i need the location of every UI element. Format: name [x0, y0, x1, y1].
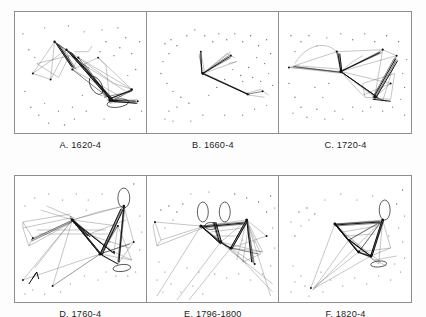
- panel-b-network: [147, 12, 279, 133]
- panel-e[interactable]: [147, 175, 280, 303]
- panel-c[interactable]: [279, 11, 412, 134]
- panel-d-network: [15, 176, 146, 302]
- panel-c-network: [279, 12, 411, 133]
- panel-b[interactable]: [147, 11, 280, 134]
- caption-panel-c: C. 1720-4: [279, 134, 412, 150]
- caption-row-2: D. 1760-4 E. 1796-1800 F. 1820-4: [14, 303, 412, 317]
- caption-panel-a: A. 1620-4: [14, 134, 147, 150]
- panel-f[interactable]: [279, 175, 412, 303]
- figure-root: A. 1620-4 B. 1660-4 C. 1720-4: [0, 0, 426, 317]
- caption-panel-e: E. 1796-1800: [147, 303, 280, 317]
- panel-grid: A. 1620-4 B. 1660-4 C. 1720-4: [14, 11, 412, 317]
- panel-row-2: [14, 175, 412, 303]
- caption-panel-d: D. 1760-4: [14, 303, 147, 317]
- panel-f-network: [279, 176, 411, 302]
- panel-a[interactable]: [14, 11, 147, 134]
- caption-panel-b: B. 1660-4: [147, 134, 280, 150]
- caption-row-1: A. 1620-4 B. 1660-4 C. 1720-4: [14, 134, 412, 150]
- panel-d[interactable]: [14, 175, 147, 303]
- panel-row-1: [14, 11, 412, 134]
- caption-panel-f: F. 1820-4: [279, 303, 412, 317]
- panel-e-network: [147, 176, 279, 302]
- panel-a-network: [15, 12, 146, 133]
